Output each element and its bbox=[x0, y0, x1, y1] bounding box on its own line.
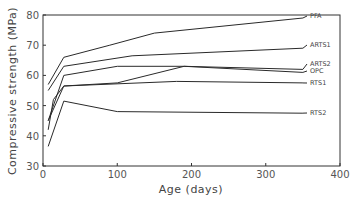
y-tick-label: 40 bbox=[26, 131, 39, 142]
series-label-pfa: PFA bbox=[310, 12, 322, 20]
series-label-rts2: RTS2 bbox=[310, 109, 326, 117]
x-tick-label: 200 bbox=[182, 169, 201, 180]
series-line-rts1 bbox=[48, 81, 303, 120]
x-axis-title: Age (days) bbox=[159, 183, 223, 196]
compressive-strength-chart: 304050607080 0100200300400 Compressive s… bbox=[0, 0, 359, 212]
y-tick-label: 80 bbox=[26, 10, 39, 21]
leader-line bbox=[303, 71, 307, 72]
plot-frame bbox=[43, 15, 340, 166]
series-labels: PFAARTS1ARTS2OPCRTS1RTS2 bbox=[310, 12, 331, 117]
y-axis-title: Compressive strength (MPa) bbox=[6, 7, 19, 175]
series-label-arts1: ARTS1 bbox=[310, 41, 331, 49]
x-tick-label: 300 bbox=[256, 169, 275, 180]
series-line-pfa bbox=[48, 18, 303, 85]
y-tick-label: 70 bbox=[26, 40, 39, 51]
series-label-opc: OPC bbox=[310, 67, 324, 75]
leader-line bbox=[303, 64, 307, 69]
series-line-opc bbox=[48, 66, 303, 130]
series-line-arts1 bbox=[48, 48, 303, 90]
y-tick-label: 30 bbox=[26, 161, 39, 172]
x-tick-label: 100 bbox=[108, 169, 127, 180]
x-tick-label: 400 bbox=[330, 169, 349, 180]
y-tick-label: 50 bbox=[26, 101, 39, 112]
series-label-rts1: RTS1 bbox=[310, 79, 326, 87]
leader-line bbox=[303, 45, 307, 48]
y-tick-label: 60 bbox=[26, 70, 39, 81]
x-tick-label: 0 bbox=[40, 169, 46, 180]
series-line-rts2 bbox=[48, 101, 303, 146]
leader-line bbox=[303, 16, 307, 18]
series-lines bbox=[48, 16, 307, 146]
